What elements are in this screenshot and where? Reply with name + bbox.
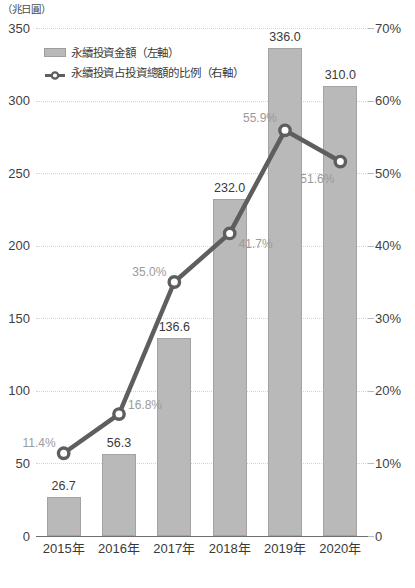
x-axis-tick-label: 2016年	[91, 542, 146, 555]
x-axis-tick-label: 2019年	[257, 542, 312, 555]
plot-area: 050100150200250300350 010%20%30%40%50%60…	[36, 28, 368, 536]
left-axis-tick-label: 0	[23, 530, 30, 543]
bar-data-labels: 26.756.3136.6232.0336.0310.0	[36, 28, 368, 536]
bar-data-label: 26.7	[36, 480, 91, 493]
x-axis-tick-label: 2017年	[147, 542, 202, 555]
right-axis-tick-mark	[368, 173, 374, 174]
right-axis-tick-mark	[368, 391, 374, 392]
line-marker-icon	[44, 67, 66, 78]
bar-data-label: 232.0	[202, 182, 257, 195]
right-axis-tick-label: 50%	[375, 167, 401, 180]
legend: 永續投資金額（左軸） 永續投資占投資總額的比例（右軸）	[44, 44, 244, 80]
left-axis-tick-label: 200	[8, 239, 30, 252]
left-axis-tick-label: 300	[8, 94, 30, 107]
right-axis-tick-mark	[368, 463, 374, 464]
left-axis-tick-label: 100	[8, 384, 30, 397]
right-axis-tick-mark	[368, 246, 374, 247]
x-axis-tick-label: 2020年	[313, 542, 368, 555]
gridline	[36, 536, 368, 537]
right-axis-tick-label: 0	[375, 530, 382, 543]
legend-item-label: 永續投資金額（左軸）	[71, 44, 179, 60]
right-axis-tick-label: 30%	[375, 312, 401, 325]
left-axis-tick-label: 150	[8, 312, 30, 325]
bar-data-label: 310.0	[313, 69, 368, 82]
bar-swatch-icon	[44, 48, 66, 57]
left-axis-tick-label: 350	[8, 22, 30, 35]
sustainable-investment-chart: （兆日圓） 050100150200250300350 010%20%30%40…	[0, 0, 415, 588]
right-axis-tick-mark	[368, 28, 374, 29]
right-axis-tick-label: 60%	[375, 94, 401, 107]
legend-item-bar: 永續投資金額（左軸）	[44, 44, 244, 60]
right-axis-tick-mark	[368, 536, 374, 537]
bar-data-label: 136.6	[147, 321, 202, 334]
bar-data-label: 56.3	[91, 437, 146, 450]
x-axis-tick-label: 2018年	[202, 542, 257, 555]
right-axis-tick-label: 20%	[375, 384, 401, 397]
left-axis-unit-label: （兆日圓）	[2, 1, 51, 16]
left-axis-tick-label: 250	[8, 167, 30, 180]
right-axis-tick-mark	[368, 318, 374, 319]
right-axis-tick-mark	[368, 101, 374, 102]
x-axis-tick-label: 2015年	[36, 542, 91, 555]
x-axis-labels: 2015年2016年2017年2018年2019年2020年	[36, 542, 368, 562]
legend-item-label: 永續投資占投資總額的比例（右軸）	[71, 64, 244, 80]
right-axis-tick-label: 40%	[375, 239, 401, 252]
legend-item-line: 永續投資占投資總額的比例（右軸）	[44, 64, 244, 80]
bar-data-label: 336.0	[257, 31, 312, 44]
right-axis-tick-label: 10%	[375, 457, 401, 470]
right-axis-tick-label: 70%	[375, 22, 401, 35]
left-axis-tick-label: 50	[16, 457, 30, 470]
